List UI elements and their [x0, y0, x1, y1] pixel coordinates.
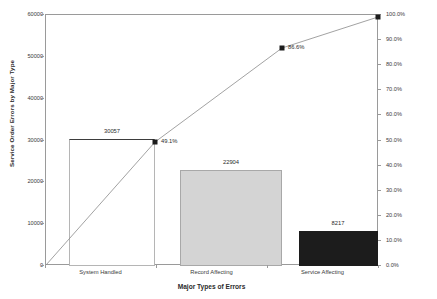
y2-tick-mark	[378, 64, 381, 65]
x-tick-mark	[267, 265, 268, 268]
y2-tick-label: 90.0%	[386, 36, 402, 42]
y-tick-label: 0	[5, 262, 43, 268]
y-tick-mark	[41, 223, 44, 224]
x-tick-mark	[45, 265, 46, 268]
y2-tick-label: 70.0%	[386, 86, 402, 92]
y2-tick-label: 40.0%	[386, 162, 402, 168]
x-tick-label: Record Affecting	[162, 269, 262, 275]
x-tick-mark	[378, 265, 379, 268]
y-tick-label: 50000	[5, 53, 43, 59]
y2-tick-mark	[378, 215, 381, 216]
y-tick-label: 20000	[5, 178, 43, 184]
cumulative-label-record-affecting: 86.6%	[288, 44, 304, 50]
y-tick-mark	[41, 56, 44, 57]
y2-tick-label: 20.0%	[386, 212, 402, 218]
y2-tick-label: 10.0%	[386, 237, 402, 243]
y-tick-mark	[41, 265, 44, 266]
x-tick-mark	[156, 265, 157, 268]
y2-tick-mark	[378, 140, 381, 141]
y-tick-mark	[41, 98, 44, 99]
y2-tick-label: 30.0%	[386, 187, 402, 193]
y-tick-label: 60000	[5, 11, 43, 17]
bar-label-record-affecting: 22904	[223, 159, 239, 165]
y2-tick-mark	[378, 39, 381, 40]
x-axis-title: Major Types of Errors	[45, 283, 378, 290]
y-axis-title: Service Order Errors by Major Type	[8, 0, 15, 239]
y-tick-mark	[41, 181, 44, 182]
y-tick-label: 40000	[5, 95, 43, 101]
x-tick-label: System Handled	[51, 269, 151, 275]
bar-label-service-affecting: 8217	[332, 220, 345, 226]
y2-tick-label: 0.0%	[386, 262, 399, 268]
y-tick-label: 30000	[5, 137, 43, 143]
y2-tick-mark	[378, 89, 381, 90]
bar-system-handled	[69, 139, 155, 266]
cumulative-label-system-handled: 49.1%	[161, 138, 177, 144]
bar-service-affecting	[299, 231, 378, 266]
pareto-chart: Service Order Errors by Major Type 01000…	[0, 0, 437, 299]
bar-record-affecting	[180, 170, 282, 266]
y-axis-left: Service Order Errors by Major Type 01000…	[0, 0, 43, 299]
y2-tick-mark	[378, 240, 381, 241]
y2-tick-label: 100.0%	[386, 11, 405, 17]
y2-tick-mark	[378, 114, 381, 115]
bar-label-system-handled: 30057	[104, 128, 120, 134]
y2-tick-label: 60.0%	[386, 111, 402, 117]
y2-tick-label: 80.0%	[386, 61, 402, 67]
y-tick-mark	[41, 14, 44, 15]
y2-tick-mark	[378, 14, 381, 15]
y2-tick-mark	[378, 190, 381, 191]
y2-tick-mark	[378, 165, 381, 166]
y2-tick-label: 50.0%	[386, 137, 402, 143]
y-tick-label: 10000	[5, 220, 43, 226]
y-axis-right-percent: 0.0%10.0%20.0%30.0%40.0%50.0%60.0%70.0%8…	[378, 0, 437, 299]
x-tick-label: Service Affecting	[273, 269, 373, 275]
y-tick-mark	[41, 140, 44, 141]
